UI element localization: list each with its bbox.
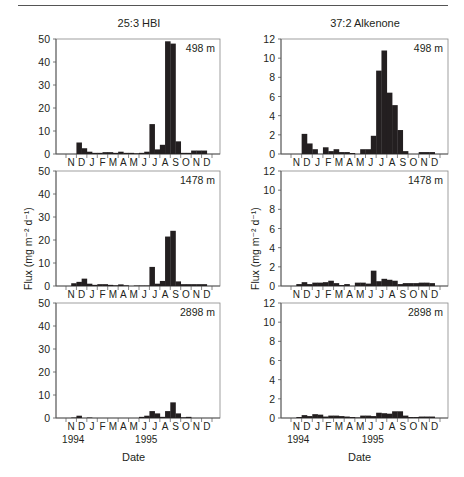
month-label: D — [203, 157, 210, 168]
month-label: S — [399, 157, 406, 168]
y-tick-label: 8 — [269, 203, 275, 215]
y-tick-label: 8 — [269, 335, 275, 347]
month-label: M — [335, 421, 343, 432]
depth-label: 2898 m — [180, 306, 215, 318]
flux-bar — [160, 281, 166, 286]
flux-bar — [419, 283, 425, 286]
y-tick-label: 10 — [263, 184, 275, 196]
month-label: N — [420, 289, 427, 300]
month-label: O — [410, 289, 418, 300]
flux-bar — [381, 279, 387, 286]
y-tick-label: 0 — [269, 280, 275, 292]
month-label: J — [315, 289, 320, 300]
flux-bar — [108, 285, 114, 286]
flux-bar — [344, 417, 350, 418]
month-label: D — [431, 157, 438, 168]
flux-bar — [103, 284, 109, 286]
y-tick-label: 0 — [44, 280, 50, 292]
flux-bar — [429, 417, 435, 418]
flux-bar — [387, 280, 393, 286]
month-label: O — [410, 421, 418, 432]
depth-label: 1478 m — [408, 174, 443, 186]
month-label: J — [152, 157, 157, 168]
month-label: O — [182, 289, 190, 300]
flux-bar — [312, 283, 318, 286]
flux-bar — [302, 415, 308, 418]
flux-bar — [419, 417, 425, 418]
y-tick-label: 6 — [269, 355, 275, 367]
chart-area: 01020304050NDJFMAMJJASOND498 m0102030405… — [0, 0, 464, 477]
flux-bar — [118, 284, 124, 286]
y-tick-label: 12 — [263, 33, 275, 45]
flux-bar — [160, 417, 166, 418]
month-label: N — [293, 421, 300, 432]
flux-bar — [344, 152, 350, 154]
flux-bar — [118, 152, 124, 154]
y-tick-label: 4 — [269, 374, 275, 386]
flux-bar — [296, 417, 302, 418]
y-tick-label: 2 — [269, 393, 275, 405]
flux-bar — [191, 151, 197, 154]
y-tick-label: 10 — [263, 316, 275, 328]
month-label: S — [172, 157, 179, 168]
month-label: J — [379, 421, 384, 432]
y-tick-label: 20 — [38, 366, 50, 378]
y-tick-label: 40 — [38, 56, 50, 68]
y-tick-label: 2 — [269, 261, 275, 273]
month-label: J — [90, 289, 95, 300]
y-tick-label: 20 — [38, 102, 50, 114]
month-label: D — [303, 289, 310, 300]
flux-bar — [202, 151, 208, 154]
month-label: A — [389, 157, 396, 168]
month-label: J — [90, 421, 95, 432]
y-tick-label: 10 — [38, 257, 50, 269]
month-label: A — [162, 157, 169, 168]
y-tick-label: 4 — [269, 242, 275, 254]
flux-bar — [381, 413, 387, 418]
y-tick-label: 0 — [44, 148, 50, 160]
month-label: M — [335, 157, 343, 168]
month-label: A — [389, 289, 396, 300]
flux-bar — [97, 284, 103, 286]
month-label: A — [120, 421, 127, 432]
flux-bar — [360, 149, 366, 154]
month-label: J — [142, 421, 147, 432]
flux-bar — [397, 411, 403, 418]
flux-bar — [371, 416, 377, 418]
flux-bar — [366, 284, 372, 286]
flux-bar — [155, 149, 161, 154]
flux-bar — [186, 284, 192, 286]
flux-bar — [328, 151, 334, 154]
y-tick-label: 0 — [269, 148, 275, 160]
y-tick-label: 2 — [269, 129, 275, 141]
flux-bar — [366, 149, 372, 154]
flux-bar — [307, 416, 313, 418]
depth-label: 498 m — [414, 42, 443, 54]
flux-bar — [376, 413, 382, 418]
year-label: 1994 — [287, 434, 310, 445]
flux-bar — [165, 237, 171, 286]
month-label: F — [99, 157, 105, 168]
plot-frame — [281, 303, 448, 418]
month-label: D — [203, 289, 210, 300]
y-tick-label: 40 — [38, 188, 50, 200]
flux-bar — [403, 283, 409, 286]
flux-bar — [397, 130, 403, 154]
flux-bar — [323, 417, 329, 418]
month-label: J — [142, 157, 147, 168]
y-tick-label: 6 — [269, 223, 275, 235]
flux-bar — [366, 416, 372, 418]
month-label: D — [78, 289, 85, 300]
month-label: A — [346, 421, 353, 432]
month-label: S — [172, 421, 179, 432]
month-label: M — [109, 421, 117, 432]
flux-bar — [381, 51, 387, 155]
flux-bar — [403, 416, 409, 418]
month-label: D — [303, 421, 310, 432]
flux-bar — [339, 152, 345, 154]
month-label: J — [142, 289, 147, 300]
flux-bar — [149, 267, 155, 286]
flux-bar — [134, 153, 140, 154]
flux-bar — [92, 153, 98, 154]
flux-bar — [344, 284, 350, 286]
